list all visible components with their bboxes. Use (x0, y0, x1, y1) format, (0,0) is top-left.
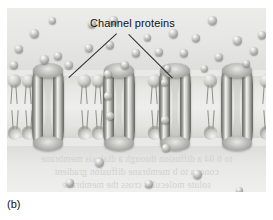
intracellular-region (7, 146, 266, 192)
channel-wall-right (124, 66, 135, 148)
channel-flare-bottom (33, 136, 63, 151)
solute-particle-in-channel (161, 116, 169, 124)
solute-particle (208, 16, 217, 25)
lipid-tails (9, 110, 20, 129)
solute-particle (95, 158, 104, 167)
phospholipid (204, 110, 217, 140)
solute-particle (215, 53, 223, 61)
solute-particle (15, 45, 23, 53)
lipid-tails (205, 85, 216, 104)
solute-particle (243, 60, 250, 67)
solute-particle (192, 34, 200, 42)
solute-particle (40, 55, 49, 64)
solute-particle (121, 61, 129, 69)
illustration-panel: to 6 04 a diffusion through a dialysis m… (7, 8, 266, 192)
phospholipid (78, 74, 91, 104)
channel-protein-2 (103, 66, 135, 148)
solute-particle (169, 29, 178, 38)
solute-particle (162, 144, 170, 152)
solute-particle (54, 52, 62, 60)
channel-wall-right (180, 66, 191, 148)
solute-particle (201, 65, 208, 72)
phospholipid (8, 110, 21, 140)
phospholipid (8, 74, 21, 104)
solute-particle (233, 36, 242, 45)
panel-letter-caption: (b) (7, 198, 20, 210)
channel-wall-right (53, 66, 64, 148)
solute-particle (236, 187, 243, 193)
phospholipid (78, 110, 91, 140)
solute-particle (258, 31, 266, 39)
solute-particle (66, 179, 74, 187)
lipid-tails (261, 110, 266, 129)
solute-particle-in-channel (104, 92, 112, 100)
phospholipid-bilayer (7, 66, 266, 148)
solute-particle-in-channel (161, 79, 168, 86)
solute-particle (85, 44, 93, 52)
lipid-tails (79, 85, 90, 104)
channel-flare-bottom (222, 136, 252, 151)
solute-particle (180, 49, 188, 57)
phospholipid (260, 74, 266, 104)
lipid-tails (261, 85, 266, 104)
phospholipid (260, 110, 266, 140)
channel-protein-1 (32, 66, 64, 148)
solute-particle (250, 47, 258, 55)
lipid-tails (9, 85, 20, 104)
channel-wall-right (242, 66, 253, 148)
solute-particle-in-channel (104, 70, 112, 78)
solute-particle (65, 61, 73, 69)
solute-particle (49, 17, 56, 24)
solute-particle-in-channel (106, 112, 114, 120)
channel-flare-bottom (104, 136, 134, 151)
figure-root: to 6 04 a diffusion through a dialysis m… (0, 0, 273, 220)
solute-particle (132, 49, 140, 57)
lipid-tails (79, 110, 90, 129)
solute-particle (30, 29, 39, 38)
phospholipid (204, 74, 217, 104)
solute-particle (10, 61, 18, 69)
lipid-tails (205, 110, 216, 129)
channel-flare-top (33, 63, 63, 78)
solute-particle (155, 48, 163, 56)
solute-particle (144, 34, 151, 41)
solute-particle (193, 170, 202, 179)
channel-proteins-label: Channel proteins (90, 17, 175, 29)
channel-protein-4 (221, 66, 253, 148)
solute-particle (145, 180, 153, 188)
